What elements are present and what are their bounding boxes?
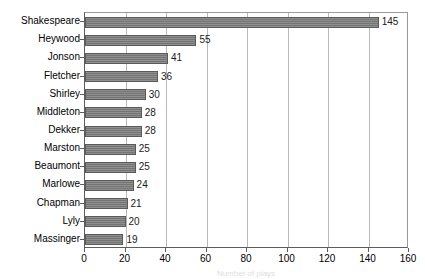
y-axis-label-heywood: Heywood <box>38 34 80 44</box>
y-axis-label-lyly: Lyly <box>63 216 80 226</box>
x-axis-tick <box>246 248 247 252</box>
bar-row: 20 <box>85 216 407 227</box>
x-axis-tick <box>125 248 126 252</box>
bar <box>85 126 142 137</box>
bar-row: 41 <box>85 53 407 64</box>
bar-value-label: 25 <box>136 162 150 172</box>
x-axis-tick-label-140: 140 <box>359 254 376 264</box>
y-axis-label-jonson: Jonson <box>48 52 80 62</box>
plot-area: 145554136302828252524212019 <box>84 12 408 248</box>
bar-row: 36 <box>85 71 407 82</box>
bar-value-label: 21 <box>128 199 142 209</box>
bar-value-label: 25 <box>136 144 150 154</box>
bar-row: 19 <box>85 234 407 245</box>
x-axis-tick <box>84 248 85 252</box>
bar <box>85 234 123 245</box>
bar-row: 25 <box>85 144 407 155</box>
x-axis-tick-label-40: 40 <box>159 254 170 264</box>
bar-value-label: 24 <box>134 180 148 190</box>
y-axis-label-shakespeare: Shakespeare <box>21 16 80 26</box>
x-axis-tick <box>368 248 369 252</box>
y-axis-label-marlowe: Marlowe <box>42 179 80 189</box>
bar <box>85 17 379 28</box>
bar-row: 24 <box>85 180 407 191</box>
bar-value-label: 28 <box>142 108 156 118</box>
y-axis-label-fletcher: Fletcher <box>44 71 80 81</box>
x-axis-tick <box>408 248 409 252</box>
bar-chart: ShakespeareHeywoodJonsonFletcherShirleyM… <box>0 0 425 279</box>
bar-value-label: 30 <box>146 90 160 100</box>
x-axis-tick-label-20: 20 <box>119 254 130 264</box>
bar <box>85 162 136 173</box>
bar <box>85 89 146 100</box>
y-axis-label-middleton: Middleton <box>37 107 80 117</box>
x-axis-tick <box>206 248 207 252</box>
x-axis-tick <box>165 248 166 252</box>
bar-row: 55 <box>85 35 407 46</box>
bar-value-label: 145 <box>379 17 399 27</box>
y-axis-label-marston: Marston <box>44 143 80 153</box>
x-axis-tick-label-80: 80 <box>240 254 251 264</box>
y-axis-label-beaumont: Beaumont <box>34 161 80 171</box>
bar <box>85 53 168 64</box>
bar-row: 30 <box>85 89 407 100</box>
x-axis-tick-label-100: 100 <box>278 254 295 264</box>
bar <box>85 144 136 155</box>
x-axis-tick <box>287 248 288 252</box>
y-axis-category-labels: ShakespeareHeywoodJonsonFletcherShirleyM… <box>0 12 80 248</box>
y-axis-label-massinger: Massinger <box>34 234 80 244</box>
bar <box>85 35 196 46</box>
bar <box>85 198 128 209</box>
bar-value-label: 36 <box>158 72 172 82</box>
bar-row: 21 <box>85 198 407 209</box>
bar-value-label: 55 <box>196 35 210 45</box>
bar-row: 145 <box>85 17 407 28</box>
bar-value-label: 28 <box>142 126 156 136</box>
x-axis-ticks: 020406080100120140160 <box>84 248 408 268</box>
bar-value-label: 19 <box>123 235 137 245</box>
y-axis-label-shirley: Shirley <box>49 89 80 99</box>
x-axis-tick-label-120: 120 <box>319 254 336 264</box>
bar <box>85 107 142 118</box>
x-axis-tick-label-0: 0 <box>81 254 87 264</box>
bar <box>85 216 126 227</box>
x-axis-tick <box>327 248 328 252</box>
x-axis-title: Number of plays <box>84 269 408 278</box>
bar-value-label: 41 <box>168 53 182 63</box>
bars: 145554136302828252524212019 <box>85 13 407 247</box>
bar <box>85 180 134 191</box>
y-axis-label-chapman: Chapman <box>37 198 80 208</box>
bar-row: 25 <box>85 162 407 173</box>
x-axis-tick-label-60: 60 <box>200 254 211 264</box>
bar <box>85 71 158 82</box>
y-axis-label-dekker: Dekker <box>48 125 80 135</box>
x-axis-tick-label-160: 160 <box>400 254 417 264</box>
bar-value-label: 20 <box>126 217 140 227</box>
bar-row: 28 <box>85 107 407 118</box>
bar-row: 28 <box>85 126 407 137</box>
